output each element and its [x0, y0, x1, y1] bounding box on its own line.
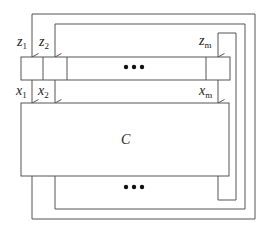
label-zm: zm [198, 33, 211, 50]
register-ellipsis [124, 65, 144, 69]
label-x1: x1 [15, 83, 27, 100]
label-x2: x2 [37, 83, 49, 100]
output-ellipsis [124, 185, 144, 189]
label-z2: z2 [38, 34, 49, 51]
circuit-diagram: C z1 z2 zm x1 x2 xm [0, 0, 269, 231]
label-xm: xm [198, 83, 212, 100]
circuit-label: C [121, 132, 131, 147]
label-z1: z1 [16, 34, 27, 51]
